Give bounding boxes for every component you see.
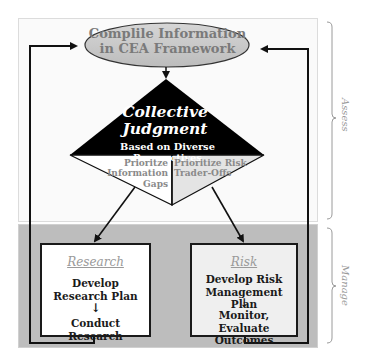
develop-research-plan-step: Develop Research Plan bbox=[42, 277, 149, 302]
manage-phase-label: Manage bbox=[340, 265, 351, 306]
prioritize-risk-tradeoffs-label: Prioritize Risk Trader-Offs bbox=[174, 158, 254, 179]
manage-brace bbox=[327, 228, 336, 343]
conduct-research-step: Conduct Research bbox=[42, 317, 149, 342]
research-heading: Research bbox=[42, 255, 149, 269]
assess-brace bbox=[327, 22, 336, 219]
prioritize-information-gaps-label: Prioritze Information Gaps bbox=[100, 158, 168, 189]
monitor-evaluate-outcomes-step: Monitor, Evaluate Outcomes bbox=[192, 309, 296, 347]
research-box: Research Develop Research Plan ↓ Conduct… bbox=[40, 243, 151, 337]
collective-judgment-title: Collective Judgment bbox=[110, 103, 220, 137]
assess-phase-label: Assess bbox=[340, 98, 351, 132]
down-arrow-icon: ↓ bbox=[42, 301, 149, 315]
compile-information-label: Complile Information in CEA Framework bbox=[85, 27, 250, 57]
risk-heading: Risk bbox=[192, 255, 296, 269]
risk-box: Risk Develop Risk Management Plan ↓ Moni… bbox=[190, 243, 298, 337]
